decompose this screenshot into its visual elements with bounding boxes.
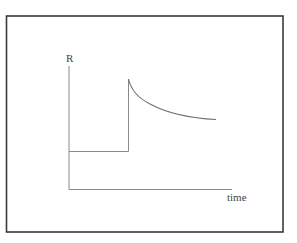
decay-curve: [129, 79, 217, 120]
baseline-segment: [69, 79, 129, 152]
resistance-time-diagram: [0, 0, 297, 243]
y-axis-label: R: [66, 53, 73, 64]
x-axis-label: time: [227, 192, 247, 203]
